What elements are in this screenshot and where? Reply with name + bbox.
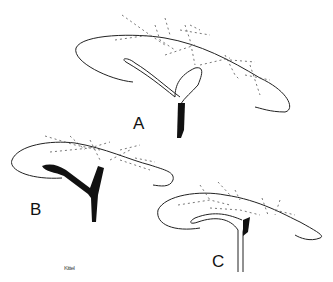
panel-b-drawing xyxy=(12,136,174,186)
panel-b-stem xyxy=(42,165,104,222)
anatomical-diagram xyxy=(0,0,333,282)
panel-c-drawing xyxy=(158,182,322,272)
panel-c-stem xyxy=(243,217,250,236)
panel-label-b: B xyxy=(30,200,41,220)
panel-a-drawing xyxy=(76,15,290,112)
panel-a-stem xyxy=(177,103,185,138)
panel-label-c: C xyxy=(212,252,224,272)
panel-label-a: A xyxy=(133,114,144,134)
artist-signature: Kittel xyxy=(64,265,74,271)
